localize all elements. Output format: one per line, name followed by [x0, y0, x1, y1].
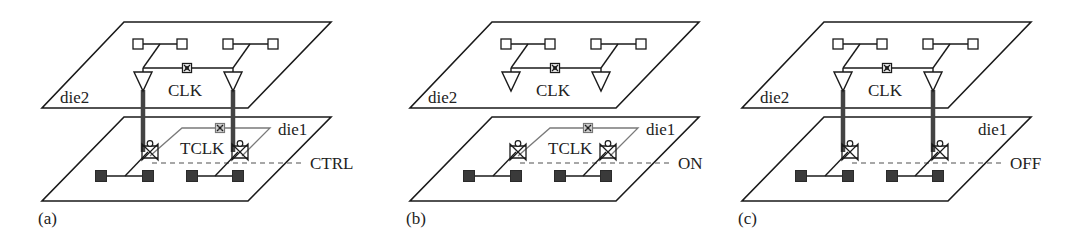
x-box-icon — [183, 64, 192, 73]
filled-square-icon — [601, 171, 612, 182]
die2-label: die2 — [760, 88, 789, 107]
open-square-icon — [591, 39, 601, 49]
die2-label: die2 — [428, 88, 457, 107]
open-square-icon — [923, 39, 933, 49]
open-square-icon — [833, 39, 843, 49]
panel-a: die2die1TCLKCTRLCLK(a) — [38, 22, 353, 228]
clk-label: CLK — [868, 81, 903, 100]
control-label: CTRL — [310, 154, 353, 173]
open-square-icon — [177, 39, 187, 49]
panel-b: die2die1TCLKONCLK(b) — [406, 22, 703, 228]
control-label: OFF — [1010, 154, 1041, 173]
x-box-icon — [551, 64, 560, 73]
panel-caption: (a) — [38, 209, 57, 228]
panel-c: die2die1OFFCLK(c) — [738, 22, 1041, 228]
x-box-icon — [883, 64, 892, 73]
open-square-icon — [968, 39, 978, 49]
open-square-icon — [877, 39, 887, 49]
filled-square-icon — [143, 171, 154, 182]
filled-square-icon — [233, 171, 244, 182]
open-square-icon — [268, 39, 278, 49]
open-square-icon — [223, 39, 233, 49]
clk-label: CLK — [168, 81, 203, 100]
clk-label: CLK — [536, 81, 571, 100]
tg-bubble — [147, 141, 153, 147]
die1-label: die1 — [278, 120, 307, 139]
filled-square-icon — [933, 171, 944, 182]
filled-square-icon — [887, 171, 898, 182]
filled-square-icon — [796, 171, 807, 182]
die1-label: die1 — [646, 120, 675, 139]
control-label: ON — [678, 154, 703, 173]
open-square-icon — [133, 39, 143, 49]
open-square-icon — [636, 39, 646, 49]
panel-caption: (b) — [406, 209, 426, 228]
panel-caption: (c) — [738, 209, 757, 228]
tclk-label: TCLK — [548, 139, 593, 158]
tg-bubble — [847, 141, 853, 147]
x-box-icon — [584, 124, 593, 133]
tg-bubble — [515, 141, 521, 147]
filled-square-icon — [843, 171, 854, 182]
filled-square-icon — [187, 171, 198, 182]
tg-bubble — [237, 141, 243, 147]
open-square-icon — [501, 39, 511, 49]
filled-square-icon — [96, 171, 107, 182]
open-square-icon — [545, 39, 555, 49]
filled-square-icon — [511, 171, 522, 182]
3d-clock-tree-figure: die2die1TCLKCTRLCLK(a)die2die1TCLKONCLK(… — [0, 0, 1077, 239]
tg-bubble — [937, 141, 943, 147]
filled-square-icon — [555, 171, 566, 182]
x-box-icon — [216, 124, 225, 133]
tg-bubble — [605, 141, 611, 147]
tclk-label: TCLK — [180, 139, 225, 158]
filled-square-icon — [464, 171, 475, 182]
die2-label: die2 — [60, 88, 89, 107]
die1-label: die1 — [978, 120, 1007, 139]
